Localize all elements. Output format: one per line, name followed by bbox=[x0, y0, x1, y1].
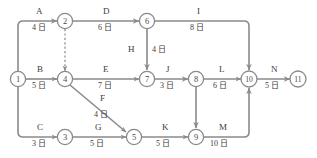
node-6[interactable]: 6 bbox=[139, 13, 154, 28]
node-10-label: 10 bbox=[245, 75, 253, 84]
edge-B-name-label: B bbox=[37, 64, 43, 74]
node-11-label: 11 bbox=[294, 75, 302, 84]
edge-F-duration-label: 4 日 bbox=[94, 110, 108, 120]
edge-G-duration-label: 5 日 bbox=[90, 139, 104, 149]
node-2-label: 2 bbox=[63, 16, 67, 26]
edge-D-duration-label: 6 日 bbox=[98, 23, 112, 33]
edge-A-name-label: A bbox=[36, 6, 43, 16]
node-7-label: 7 bbox=[145, 74, 149, 84]
edge-K-name-label: K bbox=[162, 122, 169, 132]
node-3-label: 3 bbox=[63, 132, 67, 142]
edge-C-name-label: C bbox=[37, 122, 43, 132]
node-5[interactable]: 5 bbox=[126, 129, 141, 144]
edge-C-duration-label: 3 日 bbox=[32, 139, 46, 149]
node-9[interactable]: 9 bbox=[188, 129, 203, 144]
edge-M-duration-label: 10 日 bbox=[210, 139, 228, 149]
edge-D-name-label: D bbox=[103, 6, 110, 16]
edge-L-duration-label: 6 日 bbox=[213, 81, 227, 91]
node-1-label: 1 bbox=[16, 74, 20, 84]
node-4[interactable]: 4 bbox=[57, 71, 72, 86]
node-8-label: 8 bbox=[194, 74, 198, 84]
edge-E-duration-label: 7 日 bbox=[98, 81, 112, 91]
node-5-label: 5 bbox=[132, 132, 136, 142]
edge-J-name-label: J bbox=[166, 64, 170, 74]
node-10[interactable]: 10 bbox=[241, 71, 257, 87]
node-1[interactable]: 1 bbox=[10, 71, 25, 86]
edge-A-duration-label: 4 日 bbox=[32, 23, 46, 33]
edge-H-duration-label: 4 日 bbox=[152, 45, 166, 55]
edge-G-name-label: G bbox=[95, 122, 102, 132]
edge-H-name-label: H bbox=[128, 44, 135, 54]
node-8[interactable]: 8 bbox=[188, 71, 203, 86]
edge-I-name-label: I bbox=[197, 6, 200, 16]
node-9-label: 9 bbox=[194, 132, 198, 142]
network-graph-svg: 1 2 3 4 5 6 7 8 bbox=[0, 0, 317, 158]
node-7[interactable]: 7 bbox=[139, 71, 154, 86]
edge-N-duration-label: 5 日 bbox=[265, 81, 279, 91]
edge-J-duration-label: 3 日 bbox=[160, 81, 174, 91]
edge-E-name-label: E bbox=[103, 64, 109, 74]
node-11[interactable]: 11 bbox=[290, 71, 306, 87]
node-3[interactable]: 3 bbox=[57, 129, 72, 144]
edge-N-name-label: N bbox=[271, 64, 278, 74]
edge-I-duration-label: 8 日 bbox=[190, 23, 204, 33]
edge-L-name-label: L bbox=[219, 64, 225, 74]
edge-K-duration-label: 5 日 bbox=[156, 139, 170, 149]
node-2[interactable]: 2 bbox=[57, 13, 72, 28]
edge-M-name-label: M bbox=[219, 122, 227, 132]
network-diagram-canvas: 1 2 3 4 5 6 7 8 bbox=[0, 0, 317, 158]
node-6-label: 6 bbox=[145, 16, 149, 26]
edge-F-name-label: F bbox=[100, 93, 105, 103]
edge-B-duration-label: 5 日 bbox=[32, 81, 46, 91]
